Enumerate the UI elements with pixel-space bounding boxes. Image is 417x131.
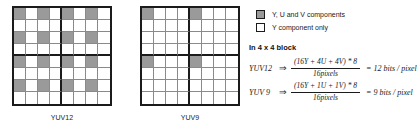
equation-yuv12-numerator: (16Y + 4U + 4V) * 8 [291,58,360,69]
pixel-cell [86,20,98,32]
pixel-cell [14,68,26,80]
yuv9-diagram: YUV9 [140,6,240,121]
pixel-cell [38,80,50,92]
legend-label-yuv: Y, U and V components [272,11,345,18]
filled-swatch-icon [256,10,265,19]
pixel-cell [142,80,154,92]
pixel-cell [50,80,62,92]
pixel-cell [142,8,154,20]
pixel-cell [38,68,50,80]
equation-yuv9-fraction: (16Y + 1U + 1V) * 8 16pixels [291,82,360,102]
pixel-cell [154,80,166,92]
pixel-cell [38,56,50,68]
pixel-cell [86,68,98,80]
pixel-cell [178,8,190,20]
pixel-cell [202,68,214,80]
pixel-cell [62,20,74,32]
pixel-cell [38,20,50,32]
pixel-cell [214,92,226,104]
pixel-cell [26,32,38,44]
pixel-cell [50,44,62,56]
pixel-cell [50,68,62,80]
pixel-cell [178,32,190,44]
pixel-cell [38,32,50,44]
pixel-cell [226,32,238,44]
empty-swatch-icon [256,23,265,32]
pixel-cell [190,8,202,20]
legend-item-y-only: Y component only [256,21,345,34]
pixel-cell [98,44,110,56]
pixel-cell [14,44,26,56]
legend-item-yuv: Y, U and V components [256,8,345,21]
pixel-cell [166,80,178,92]
equation-yuv9-numerator: (16Y + 1U + 1V) * 8 [291,82,360,93]
pixel-cell [86,32,98,44]
pixel-cell [74,8,86,20]
pixel-cell [26,68,38,80]
pixel-cell [202,8,214,20]
pixel-cell [226,92,238,104]
pixel-cell [26,44,38,56]
pixel-cell [98,92,110,104]
yuv12-pixel-grid [12,6,112,106]
pixel-cell [62,32,74,44]
pixel-cell [86,44,98,56]
pixel-cell [62,80,74,92]
pixel-cell [14,80,26,92]
pixel-cell [154,32,166,44]
pixel-cell [14,92,26,104]
pixel-cell [86,80,98,92]
pixel-cell [74,44,86,56]
pixel-cell [62,56,74,68]
pixel-cell [166,32,178,44]
pixel-cell [86,56,98,68]
pixel-cell [214,68,226,80]
pixel-cell [142,32,154,44]
pixel-cell [86,8,98,20]
pixel-cell [190,32,202,44]
pixel-cell [26,8,38,20]
equation-yuv9: YUV 9 ⇒ (16Y + 1U + 1V) * 8 16pixels = 9… [249,80,417,104]
equation-yuv12: YUV12 ⇒ (16Y + 4U + 4V) * 8 16pixels = 1… [249,56,417,80]
pixel-cell [142,68,154,80]
pixel-cell [166,56,178,68]
equation-yuv9-result: = 9 bits / pixel [366,88,413,97]
pixel-cell [62,92,74,104]
pixel-cell [38,92,50,104]
pixel-cell [38,8,50,20]
pixel-cell [74,56,86,68]
pixel-cell [202,56,214,68]
pixel-cell [214,20,226,32]
pixel-cell [26,92,38,104]
implies-arrow-icon: ⇒ [279,88,287,97]
pixel-cell [226,8,238,20]
pixel-cell [178,20,190,32]
pixel-cell [26,56,38,68]
pixel-cell [214,8,226,20]
pixel-cell [50,32,62,44]
pixel-cell [62,68,74,80]
pixel-cell [50,8,62,20]
pixel-cell [166,44,178,56]
pixel-cell [178,92,190,104]
implies-arrow-icon: ⇒ [279,64,287,73]
equation-yuv12-fraction: (16Y + 4U + 4V) * 8 16pixels [291,58,360,78]
pixel-cell [74,92,86,104]
pixel-cell [26,20,38,32]
yuv12-diagram: YUV12 [12,6,112,121]
pixel-cell [226,44,238,56]
pixel-cell [98,80,110,92]
pixel-cell [226,20,238,32]
yuv12-caption: YUV12 [12,114,112,121]
pixel-cell [154,20,166,32]
equation-yuv9-denominator: 16pixels [313,93,338,103]
pixel-cell [214,32,226,44]
pixel-cell [14,20,26,32]
equation-yuv12-name: YUV12 [249,64,279,73]
pixel-cell [178,44,190,56]
pixel-cell [86,92,98,104]
legend-label-y-only: Y component only [272,24,328,31]
pixel-cell [166,20,178,32]
pixel-cell [142,56,154,68]
